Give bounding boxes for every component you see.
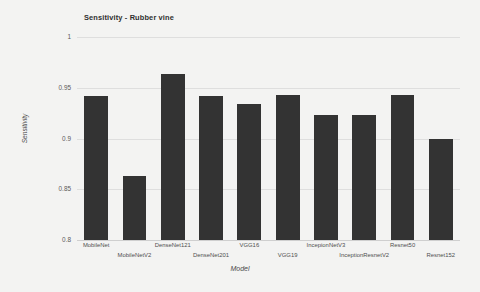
gridline: [77, 37, 460, 38]
x-axis-tick: InceptionResnetV2: [339, 252, 389, 258]
y-axis-tick: 0.9: [35, 135, 71, 142]
bar: [276, 95, 300, 240]
gridline: [77, 88, 460, 89]
x-axis-tick: Resnet152: [427, 252, 456, 258]
x-axis-tick: VGG16: [240, 242, 260, 248]
bar: [429, 139, 453, 241]
chart-title: Sensitivity - Rubber vine: [84, 13, 174, 22]
bar: [314, 115, 338, 240]
plot-area: [77, 37, 460, 240]
y-axis-tick: 0.95: [35, 84, 71, 91]
x-axis-tick: MobileNet: [83, 242, 110, 248]
bar: [199, 96, 223, 240]
gridline: [77, 240, 460, 241]
bar: [237, 104, 261, 240]
y-axis-tick: 1: [35, 33, 71, 40]
x-axis-tick: DenseNet121: [155, 242, 191, 248]
y-axis-tick: 0.85: [35, 185, 71, 192]
bar: [123, 176, 147, 240]
x-axis-tick: MobileNetV2: [118, 252, 152, 258]
x-axis-tick: VGG19: [278, 252, 298, 258]
bar: [391, 95, 415, 240]
x-axis-tick: DenseNet201: [193, 252, 229, 258]
y-axis-tick: 0.8: [35, 236, 71, 243]
bar: [161, 74, 185, 240]
bar: [352, 115, 376, 240]
y-axis-label: Sensitivity: [21, 99, 28, 159]
x-axis-tick: IncepionNetV3: [307, 242, 346, 248]
chart-container: Sensitivity - Rubber vine Sensitivity 0.…: [0, 0, 480, 292]
bar: [84, 96, 108, 240]
x-axis-tick: Resnet50: [390, 242, 415, 248]
x-axis-label: Model: [0, 265, 480, 272]
